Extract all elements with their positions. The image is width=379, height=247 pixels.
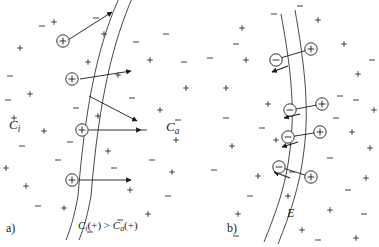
cation-a-1	[57, 35, 69, 47]
bg-plus-mark	[300, 228, 305, 233]
bg-plus-mark	[356, 72, 361, 77]
bg-plus-mark	[52, 20, 57, 25]
bg-plus-mark	[62, 206, 67, 211]
label-inner-concentration: Ci	[9, 117, 20, 134]
cation-a-3	[76, 124, 88, 136]
bg-plus-mark	[28, 92, 33, 97]
bg-plus-mark	[170, 170, 175, 175]
flux-arrow-a-1	[68, 12, 112, 40]
bg-plus-mark	[256, 174, 261, 179]
bg-plus-mark	[146, 212, 151, 217]
caption-relation: >	[104, 219, 110, 231]
panel-label-a: a)	[6, 221, 15, 236]
diagram-canvas	[0, 0, 379, 247]
caption-paren-inner: (+)	[88, 219, 102, 231]
figure-root: Ci Ca E a) b) Ci(+) > Ca(+)	[0, 0, 379, 247]
label-outer-concentration: Ca	[166, 119, 179, 136]
cation-a-4	[66, 174, 78, 186]
bg-plus-mark	[274, 138, 279, 143]
bg-plus-mark	[224, 86, 229, 91]
cation-b-4	[305, 171, 317, 183]
membrane-a-inner	[79, 0, 133, 240]
bg-plus-mark	[128, 188, 133, 193]
bg-plus-mark	[244, 58, 249, 63]
bg-plus-mark	[148, 58, 153, 63]
bg-plus-mark	[240, 26, 245, 31]
bg-plus-mark	[24, 184, 29, 189]
anion-b-2	[284, 104, 296, 116]
panel-label-b: b)	[227, 221, 237, 236]
bg-plus-mark	[286, 194, 291, 199]
anion-b-3	[282, 131, 294, 143]
bg-plus-mark	[266, 102, 271, 107]
anion-b-4	[273, 161, 285, 173]
label-electric-field: E	[287, 206, 294, 221]
bg-plus-mark	[354, 236, 359, 241]
bg-plus-mark	[184, 86, 189, 91]
bg-plus-mark	[372, 108, 377, 113]
caption-paren-outer: (+)	[124, 219, 138, 231]
cation-a-2	[66, 73, 78, 85]
label-ci-symbol: C	[9, 117, 18, 132]
panel-a-group	[57, 0, 141, 240]
bg-plus-mark	[174, 138, 179, 143]
panel-a-caption: Ci(+) > Ca(+)	[78, 219, 138, 233]
cation-b-3	[314, 126, 326, 138]
bg-plus-mark	[236, 212, 241, 217]
bg-plus-mark	[342, 42, 347, 47]
label-ci-subscript: i	[18, 124, 21, 134]
label-ca-subscript: a	[175, 126, 180, 136]
bg-plus-mark	[4, 166, 9, 171]
flux-arrow-a-3	[89, 96, 137, 121]
bg-plus-mark	[350, 130, 355, 135]
label-ca-symbol: C	[166, 119, 175, 134]
bg-plus-mark	[106, 149, 111, 154]
bg-plus-mark	[328, 208, 333, 213]
bg-plus-mark	[158, 108, 163, 113]
bg-plus-mark	[368, 146, 373, 151]
anion-b-1	[270, 54, 282, 66]
bg-plus-mark	[364, 176, 369, 181]
bg-plus-mark	[86, 60, 91, 65]
bg-plus-mark	[230, 144, 235, 149]
field-arrow-1	[272, 66, 288, 72]
cation-b-2	[316, 98, 328, 110]
bg-plus-mark	[316, 18, 321, 23]
bg-plus-mark	[42, 129, 47, 134]
flux-arrow-a-2	[80, 71, 131, 79]
bg-plus-mark	[18, 46, 23, 51]
panel-b-group	[264, 10, 328, 244]
cation-b-1	[305, 43, 317, 55]
